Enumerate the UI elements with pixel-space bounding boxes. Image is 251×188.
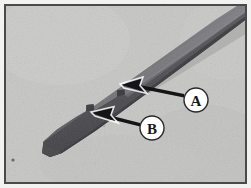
photo-area: A B xyxy=(0,0,251,188)
callout-a-label: A xyxy=(191,93,202,109)
surface-speck xyxy=(11,158,14,161)
annotated-photograph: A B xyxy=(0,0,251,188)
figure-container: A B xyxy=(0,0,251,188)
surface-speck-secondary xyxy=(103,125,105,127)
callout-b-label: B xyxy=(147,121,157,137)
